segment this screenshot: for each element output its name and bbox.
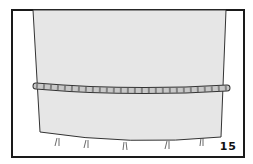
illustration-frame: [0, 0, 253, 164]
fabric-tube: [33, 10, 226, 141]
step-number: 15: [220, 140, 237, 153]
